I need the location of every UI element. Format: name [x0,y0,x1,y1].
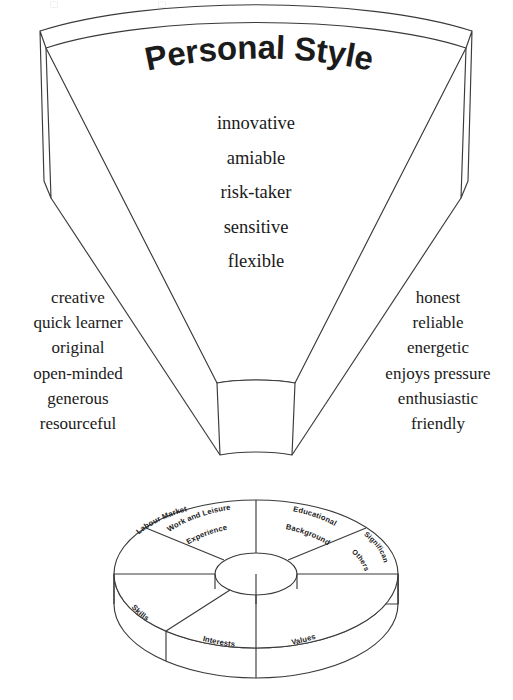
fan-mouth-band [217,380,295,455]
trait-right-1: reliable [358,310,513,335]
right-trait-list: honestreliableenergeticenjoys pressureen… [358,285,513,436]
diagram-canvas: Personal Style Work and Leisure Experien… [0,0,513,700]
left-trait-list: creativequick learneroriginalopen-minded… [0,285,158,436]
trait-left-4: generous [0,386,158,411]
trait-center-2: risk-taker [176,175,336,210]
trait-right-2: energetic [358,335,513,360]
fan-right-edge-face [461,31,472,198]
trait-left-2: original [0,335,158,360]
career-wheel [114,500,398,678]
center-trait-list: innovativeamiablerisk-takersensitiveflex… [176,106,336,279]
trait-right-3: enjoys pressure [358,361,513,386]
trait-center-1: amiable [176,141,336,176]
trait-left-5: resourceful [0,411,158,436]
trait-left-1: quick learner [0,310,158,335]
trait-center-4: flexible [176,244,336,279]
trait-right-0: honest [358,285,513,310]
trait-center-0: innovative [176,106,336,141]
trait-center-3: sensitive [176,210,336,245]
trait-right-5: friendly [358,411,513,436]
trait-left-3: open-minded [0,361,158,386]
trait-right-4: enthusiastic [358,386,513,411]
trait-left-0: creative [0,285,158,310]
fan-left-edge-face [40,31,51,198]
